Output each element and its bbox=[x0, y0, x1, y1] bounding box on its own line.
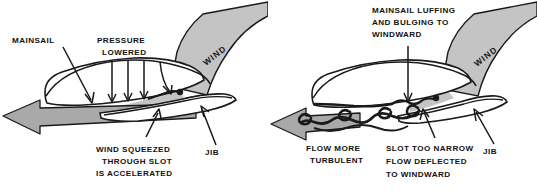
mainsail-clew-point bbox=[177, 89, 183, 95]
jib-leader-arrow bbox=[474, 109, 494, 144]
mainsail-clew-point bbox=[433, 95, 439, 101]
panel-narrow-slot: MAINSAIL LUFFING AND BULGING TO WINDWARD… bbox=[268, 0, 537, 191]
jib-leader-arrow bbox=[201, 106, 216, 145]
panel-correct-slot: MAINSAIL PRESSURE LOWERED WIND JIB WIND … bbox=[0, 0, 268, 191]
flow-arrow-left bbox=[271, 108, 360, 140]
label-mainsail-note-line3: WINDWARD bbox=[372, 30, 422, 39]
label-jib: JIB bbox=[483, 147, 497, 156]
label-mainsail-note-line2: AND BULGING TO bbox=[372, 18, 449, 27]
label-slot-note-line2: THROUGH SLOT bbox=[102, 157, 172, 166]
label-pressure-lowered-line2: LOWERED bbox=[102, 48, 147, 57]
label-slot-note-line2: FLOW DEFLECTED bbox=[386, 157, 467, 166]
label-slot-note-line3: IS ACCELERATED bbox=[96, 169, 172, 178]
label-slot-note-line1: WIND SQUEEZED bbox=[96, 145, 170, 154]
label-flow-note-line1: FLOW MORE bbox=[306, 144, 361, 153]
label-flow-note-line2: TURBULENT bbox=[310, 156, 364, 165]
label-slot-note-line1: SLOT TOO NARROW bbox=[386, 144, 474, 153]
label-mainsail: MAINSAIL bbox=[12, 36, 55, 45]
label-slot-note-line3: TO WINDWARD bbox=[386, 170, 451, 179]
label-mainsail-note-line1: MAINSAIL LUFFING bbox=[372, 6, 456, 15]
label-jib: JIB bbox=[205, 148, 219, 157]
label-pressure-lowered-line1: PRESSURE bbox=[97, 36, 145, 45]
sail-slot-comparison-figure: MAINSAIL PRESSURE LOWERED WIND JIB WIND … bbox=[0, 0, 537, 191]
